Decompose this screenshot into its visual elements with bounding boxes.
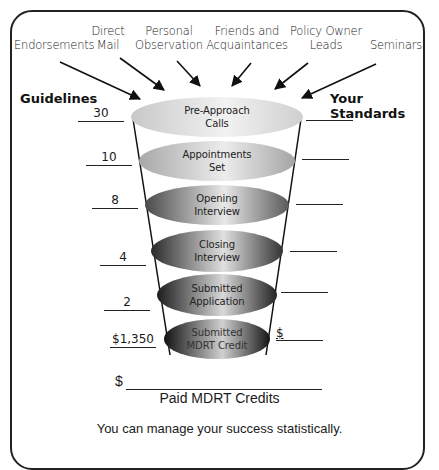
paid-currency-symbol: $ xyxy=(115,373,123,389)
standard-field-1[interactable] xyxy=(306,106,353,121)
footer-caption: You can manage your success statisticall… xyxy=(0,421,439,436)
arrow-endorsements xyxy=(60,62,140,99)
arrows xyxy=(60,58,376,99)
standard-field-6[interactable]: $ xyxy=(276,326,323,341)
stage-label-5: SubmittedApplication xyxy=(157,282,277,308)
guideline-value-4: 4 xyxy=(100,250,146,266)
standard-field-2[interactable] xyxy=(302,145,349,160)
arrow-friends xyxy=(232,63,251,86)
arrow-policy-owner xyxy=(275,63,308,89)
stage-label-4: ClosingInterview xyxy=(157,238,277,264)
arrow-direct-mail xyxy=(120,58,164,90)
standard-field-5[interactable] xyxy=(281,278,328,293)
standard-field-4[interactable] xyxy=(290,237,337,252)
guideline-value-2: 10 xyxy=(86,150,132,166)
guideline-value-6: $1,350 xyxy=(110,332,156,348)
stage-label-2: AppointmentsSet xyxy=(157,148,277,174)
guideline-value-1: 30 xyxy=(78,106,124,122)
stage-label-6: SubmittedMDRT Credit xyxy=(157,326,277,352)
stage-label-1: Pre-ApproachCalls xyxy=(157,104,277,130)
paid-mdrt-credits-label: Paid MDRT Credits xyxy=(0,390,439,406)
guideline-value-3: 8 xyxy=(92,193,138,209)
arrow-seminars xyxy=(302,64,376,98)
stage-label-3: OpeningInterview xyxy=(157,192,277,218)
guideline-value-5: 2 xyxy=(104,295,150,311)
arrow-personal-observation xyxy=(177,61,200,86)
standard-field-3[interactable] xyxy=(296,190,343,205)
paid-mdrt-credits-field[interactable] xyxy=(126,373,322,390)
